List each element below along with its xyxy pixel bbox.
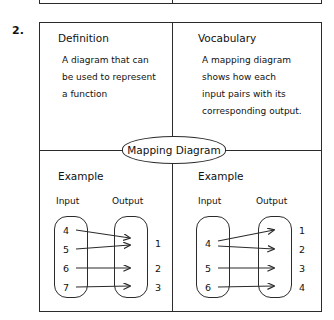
arrow-6-to-4 [218,286,274,287]
arrow-5-to-1 [76,245,130,249]
quadrant-definition: Definition A diagram that can be used to… [58,32,166,103]
example-left-title: Example [58,170,166,182]
vocabulary-line: input pairs with its [198,86,316,103]
arrow-7-to-3 [76,286,130,287]
definition-title: Definition [58,32,166,44]
arrow-4-to-2 [218,246,274,249]
quadrant-vocabulary: Vocabulary A mapping diagram shows how e… [198,32,316,120]
previous-item-divider [172,0,173,4]
quadrant-example-left: Example [58,170,166,190]
center-term-label: Mapping Diagram [127,144,220,156]
definition-line: A diagram that can [58,52,166,69]
vocabulary-line: corresponding output. [198,103,316,120]
mapping-diagram-right: Input Output 4 5 6 1 2 3 4 [192,196,310,304]
vocabulary-line: A mapping diagram [198,52,316,69]
vertical-divider [172,22,173,312]
vocabulary-line: shows how each [198,69,316,86]
definition-line: be used to represent [58,69,166,86]
previous-item-frame [39,0,322,4]
vocabulary-title: Vocabulary [198,32,316,44]
worksheet-page: 2. Definition A diagram that can be used… [0,0,334,320]
mapping-diagram-left: Input Output 4 5 6 7 1 2 3 [52,196,164,304]
definition-line: a function [58,86,166,103]
example-right-title: Example [198,170,316,182]
quadrant-example-right: Example [198,170,316,190]
mapping-arrows [192,196,310,304]
arrow-4-to-1 [218,230,274,241]
arrow-4-to-1 [76,230,130,238]
center-term-oval: Mapping Diagram [122,136,226,164]
item-number: 2. [12,24,24,37]
mapping-arrows [52,196,164,304]
